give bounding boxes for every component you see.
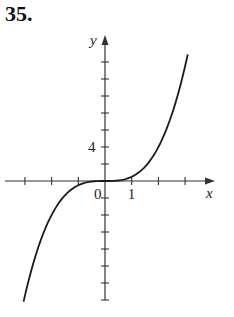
x-axis-label: x [205, 185, 213, 201]
x-tick-label: 0 [94, 186, 102, 202]
y-tick-label: 4 [88, 139, 96, 155]
curve-line [24, 54, 188, 301]
y-axis-label: y [88, 32, 97, 48]
tick-labels: 014 [88, 139, 135, 202]
y-arrow-icon [102, 35, 109, 45]
cubic-graph: x y 014 [0, 0, 234, 317]
x-tick-label: 1 [128, 186, 136, 202]
x-arrow-icon [205, 178, 215, 185]
